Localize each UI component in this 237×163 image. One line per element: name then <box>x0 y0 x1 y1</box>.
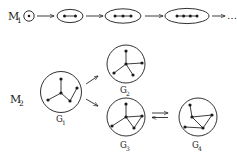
graph-G4-edge-mid-right <box>192 115 212 117</box>
graph-G2-node-bottom <box>131 73 134 76</box>
equilibrium-arrow <box>152 113 168 118</box>
graph-G4-edge-bottom-right <box>203 115 212 128</box>
stage-3-node-3 <box>130 15 133 18</box>
stage-2-node-1 <box>63 15 66 18</box>
graph-G3-node-bottom <box>132 126 135 129</box>
graph-G1-node-center <box>59 91 62 94</box>
row-M1-label-subscript: 1 <box>17 16 22 25</box>
graph-G3-node-center <box>124 115 127 118</box>
graph-G1-edge-rightlow-right <box>70 88 77 101</box>
graph-G2-edge-center-leftlow <box>114 64 126 73</box>
stage-1-node-1 <box>28 15 31 18</box>
stage-2 <box>57 9 83 22</box>
graph-G3-edge-center-rightlow <box>126 117 134 128</box>
graph-G4-label-subscript: 4 <box>198 145 202 152</box>
graph-G4-node-top <box>188 103 191 106</box>
graph-G2-node-left <box>112 71 115 74</box>
figure-canvas: M 1 <box>0 0 237 163</box>
graph-G4-edge-mid-bottom <box>192 117 203 128</box>
graph-G1-node-left <box>46 98 49 101</box>
graph-G3-node-top <box>124 102 127 105</box>
graph-G3-edge-center-right <box>126 116 142 117</box>
graph-G4: G 4 <box>179 98 217 152</box>
graph-G2-node-right <box>140 61 143 64</box>
graph-G4-edge-top-mid <box>190 105 192 117</box>
graph-G3-node-left <box>110 124 113 127</box>
graph-G3-edge-center-leftlow <box>112 117 126 126</box>
graph-G2-node-center <box>124 62 127 65</box>
graph-G2-node-top <box>124 49 127 52</box>
graph-G4-node-right <box>210 113 213 116</box>
graph-sequence-diagram: M 1 <box>0 0 237 163</box>
branch-arrow-lower <box>86 99 98 106</box>
graph-G2-edge-center-rightlow <box>126 64 133 75</box>
graph-G4-node-bottom <box>201 126 204 129</box>
graph-G4-node-center <box>190 115 193 118</box>
graph-G2-edge-center-right <box>126 63 142 64</box>
stage-4-node-1 <box>176 15 179 18</box>
graph-G1-node-top <box>59 77 62 80</box>
graph-G3-edge-bottom-right <box>134 116 142 128</box>
graph-G4-edge-bottom-left <box>185 127 203 128</box>
stage-3-node-2 <box>122 15 125 18</box>
stage-4-node-3 <box>189 15 192 18</box>
stage-3-node-1 <box>114 15 117 18</box>
stage-2-node-2 <box>74 15 77 18</box>
stage-4 <box>165 8 209 23</box>
graph-G1-edge-center-rightlow <box>61 93 70 101</box>
graph-G2: G 2 <box>107 45 145 97</box>
graph-G1-label-subscript: 1 <box>62 119 66 126</box>
graph-G2-label-subscript: 2 <box>126 90 130 97</box>
stage-1 <box>24 11 34 21</box>
row-M1: M 1 <box>8 8 237 25</box>
stage-3 <box>105 9 141 23</box>
stage-4-node-4 <box>196 15 199 18</box>
row-M1-ellipsis: … <box>227 10 237 21</box>
graph-G4-node-left <box>183 125 186 128</box>
row-M2-label-subscript: 2 <box>19 99 24 108</box>
graph-G1-node-right <box>75 86 78 89</box>
stage-4-node-2 <box>182 15 185 18</box>
row-M2: M 2 G 1 <box>10 45 217 152</box>
graph-G4-outline <box>179 98 217 136</box>
graph-G3-label-subscript: 3 <box>126 145 130 152</box>
graph-G1-edge-center-leftlow <box>48 93 61 100</box>
graph-G1-node-bottom <box>68 99 71 102</box>
graph-G3: G 3 <box>107 98 145 152</box>
graph-G3-node-right <box>140 114 143 117</box>
graph-G1: G 1 <box>41 72 82 126</box>
branch-arrow-upper <box>86 76 98 84</box>
